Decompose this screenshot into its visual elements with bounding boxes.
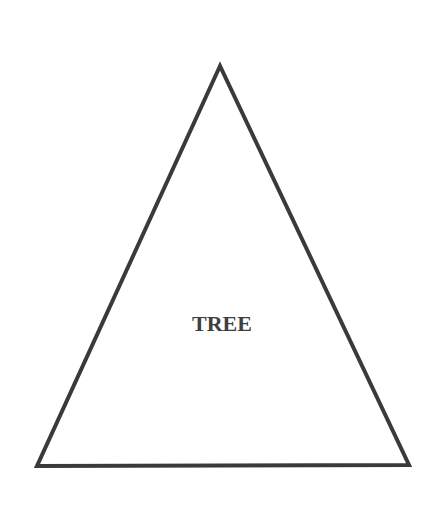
background [0, 0, 444, 511]
triangle-label: TREE [192, 311, 252, 336]
tree-diagram: TREE [0, 0, 444, 511]
